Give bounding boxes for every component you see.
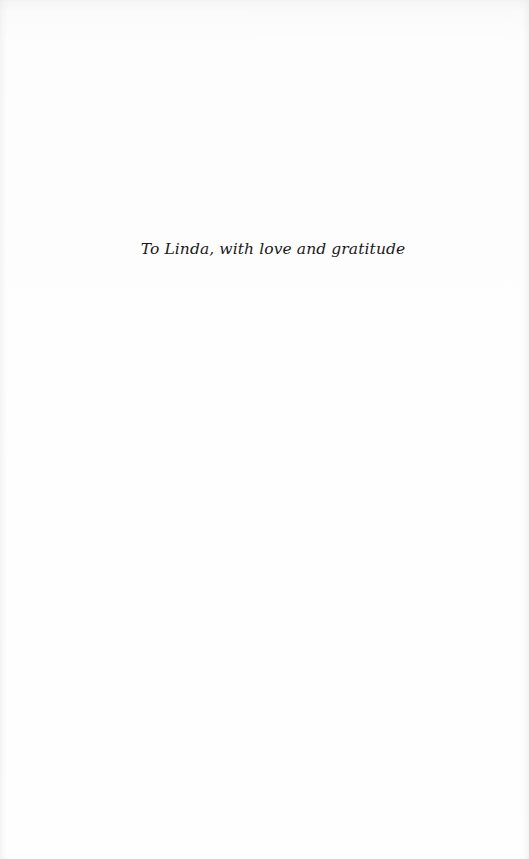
book-page: To Linda, with love and gratitude [0,0,529,859]
dedication-text: To Linda, with love and gratitude [0,240,529,258]
